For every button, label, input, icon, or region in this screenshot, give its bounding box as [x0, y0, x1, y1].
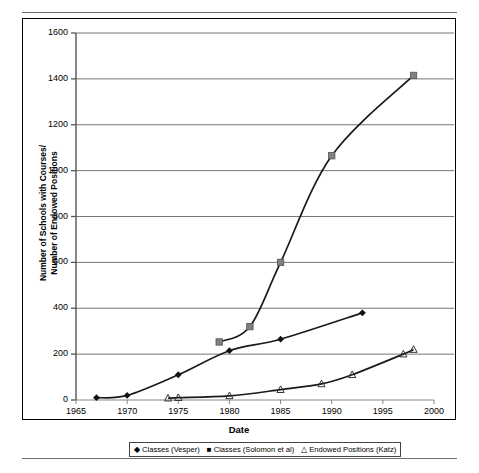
- series-markers: [93, 72, 417, 401]
- data-point: [216, 339, 222, 345]
- series-line-0: [96, 313, 362, 398]
- data-point: [410, 72, 416, 78]
- x-tick-label: 1980: [212, 406, 246, 416]
- y-tick-label: 1600: [34, 27, 68, 37]
- data-point: [277, 336, 284, 343]
- data-point: [226, 347, 233, 354]
- x-tick-label: 1970: [110, 406, 144, 416]
- page-rule-bottom: [22, 458, 457, 459]
- legend-marker-icon: △: [301, 444, 307, 455]
- y-axis-title-line1: Number of Schools with Courses/: [38, 108, 49, 318]
- y-axis-title: Number of Schools with Courses/ Number o…: [38, 108, 60, 318]
- chart-figure: 02004006008001000120014001600 1965197019…: [22, 18, 457, 448]
- x-tick-label: 1965: [59, 406, 93, 416]
- legend-entry: ■Classes (Solomon et al): [207, 444, 294, 455]
- data-point: [277, 259, 283, 265]
- page-rule-top: [22, 12, 457, 13]
- legend-label: Classes (Solomon et al): [214, 445, 295, 454]
- series-line-1: [219, 75, 413, 342]
- x-axis-title: Date: [22, 424, 456, 435]
- data-point: [410, 346, 417, 353]
- legend-label: Classes (Vesper): [142, 445, 200, 454]
- data-point: [124, 392, 131, 399]
- y-tick-label: 1400: [34, 73, 68, 83]
- data-point: [175, 371, 182, 378]
- x-tick-label: 1985: [264, 406, 298, 416]
- chart-plot: [22, 18, 456, 420]
- legend-marker-icon: ◆: [134, 444, 140, 455]
- y-tick-label: 0: [34, 394, 68, 404]
- x-tick-label: 2000: [417, 406, 451, 416]
- data-point: [247, 323, 253, 329]
- y-axis-title-line2: Number of Endowed Positions: [49, 108, 60, 318]
- data-point: [329, 153, 335, 159]
- legend-marker-icon: ■: [207, 444, 212, 455]
- x-tick-label: 1975: [161, 406, 195, 416]
- gridlines: [76, 33, 454, 354]
- y-tick-label: 200: [34, 348, 68, 358]
- legend-label: Endowed Positions (Katz): [309, 445, 396, 454]
- series-line-2: [168, 350, 413, 399]
- series-lines: [96, 75, 413, 398]
- legend-entry: ◆Classes (Vesper): [134, 444, 200, 455]
- legend-entry: △Endowed Positions (Katz): [301, 444, 396, 455]
- x-tick-label: 1990: [315, 406, 349, 416]
- y-axis-ticks: [71, 33, 76, 400]
- data-point: [359, 309, 366, 316]
- x-tick-label: 1995: [366, 406, 400, 416]
- chart-legend: ◆Classes (Vesper)■Classes (Solomon et al…: [129, 442, 401, 457]
